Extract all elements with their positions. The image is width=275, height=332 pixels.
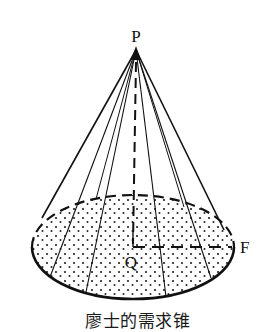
label-q: Q bbox=[125, 253, 137, 272]
apex-point bbox=[131, 46, 141, 60]
label-f: F bbox=[240, 238, 249, 257]
figure-caption: 廖士的需求锥 bbox=[0, 307, 275, 332]
demand-cone-diagram: P Q F bbox=[0, 0, 275, 332]
label-p: P bbox=[131, 27, 140, 46]
cone-back-generator-lines bbox=[96, 50, 184, 207]
cone-left-edge bbox=[42, 50, 136, 218]
